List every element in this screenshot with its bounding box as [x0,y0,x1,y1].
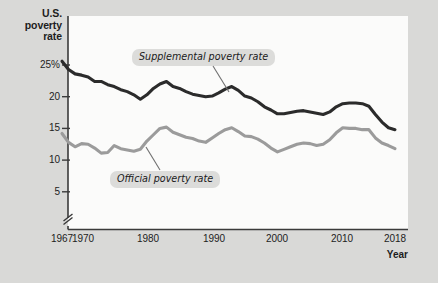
leader-lines [146,66,229,170]
figure-container: U.S. poverty rate 25% 20 15 10 5 1967 19… [0,0,438,283]
axes-group [62,16,408,230]
series-line-official-poverty-rate [62,127,395,153]
leader-line-official [146,147,160,170]
chart-svg [0,0,438,283]
leader-line-supplemental [213,66,229,92]
series-line-supplemental-poverty-rate [62,61,395,129]
series-group [62,61,395,153]
